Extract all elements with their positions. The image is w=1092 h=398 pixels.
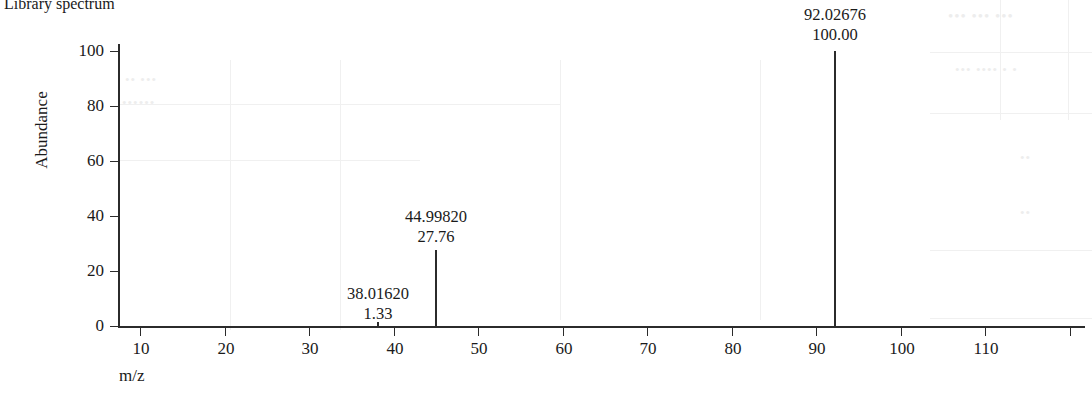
x-tick-10 xyxy=(140,327,141,336)
x-tick-80 xyxy=(732,327,733,336)
y-tick-0 xyxy=(110,326,118,327)
x-tick-label-20: 20 xyxy=(196,339,256,359)
y-tick-40 xyxy=(110,216,118,217)
y-tick-label-20: 20 xyxy=(56,261,104,281)
x-tick-120 xyxy=(1070,327,1071,336)
x-tick-label-60: 60 xyxy=(534,339,594,359)
peak-mz-45: 44.99820 xyxy=(356,207,516,227)
x-tick-20 xyxy=(225,327,226,336)
x-tick-60 xyxy=(563,327,564,336)
x-tick-90 xyxy=(816,327,817,336)
x-axis-title: m/z xyxy=(119,366,145,386)
x-tick-label-50: 50 xyxy=(449,339,509,359)
x-tick-100 xyxy=(901,327,902,336)
x-tick-label-70: 70 xyxy=(618,339,678,359)
x-tick-70 xyxy=(647,327,648,336)
x-tick-50 xyxy=(478,327,479,336)
y-tick-80 xyxy=(110,106,118,107)
x-tick-label-80: 80 xyxy=(703,339,763,359)
chart-title: Library spectrum xyxy=(4,0,115,13)
mass-spectrum-plot: 100 80 60 40 20 0 10 20 30 40 50 60 70 8… xyxy=(0,0,1092,398)
y-tick-20 xyxy=(110,271,118,272)
x-tick-40 xyxy=(394,327,395,336)
y-tick-60 xyxy=(110,161,118,162)
peak-label-45: 44.99820 27.76 xyxy=(356,207,516,247)
x-tick-label-90: 90 xyxy=(787,339,847,359)
x-tick-label-30: 30 xyxy=(280,339,340,359)
y-tick-label-40: 40 xyxy=(56,206,104,226)
x-tick-label-100: 100 xyxy=(872,339,932,359)
x-tick-label-110: 110 xyxy=(956,339,1016,359)
x-tick-label-40: 40 xyxy=(365,339,425,359)
peak-intensity-38: 1.33 xyxy=(298,304,458,324)
peak-mz-92: 92.02676 xyxy=(755,5,915,25)
y-tick-label-100: 100 xyxy=(56,41,104,61)
peak-stem-92 xyxy=(834,51,836,326)
y-tick-label-60: 60 xyxy=(56,151,104,171)
x-axis-line xyxy=(118,326,1085,328)
y-tick-100 xyxy=(110,51,118,52)
x-tick-label-10: 10 xyxy=(111,339,171,359)
peak-intensity-45: 27.76 xyxy=(356,227,516,247)
x-tick-110 xyxy=(985,327,986,336)
y-axis-title: Abundance xyxy=(32,70,52,190)
peak-label-38: 38.01620 1.33 xyxy=(298,284,458,324)
peak-mz-38: 38.01620 xyxy=(298,284,458,304)
peak-label-92: 92.02676 100.00 xyxy=(755,5,915,45)
y-tick-label-80: 80 xyxy=(56,96,104,116)
x-tick-30 xyxy=(309,327,310,336)
y-tick-label-0: 0 xyxy=(56,316,104,336)
y-axis-line xyxy=(118,44,120,327)
peak-intensity-92: 100.00 xyxy=(755,25,915,45)
